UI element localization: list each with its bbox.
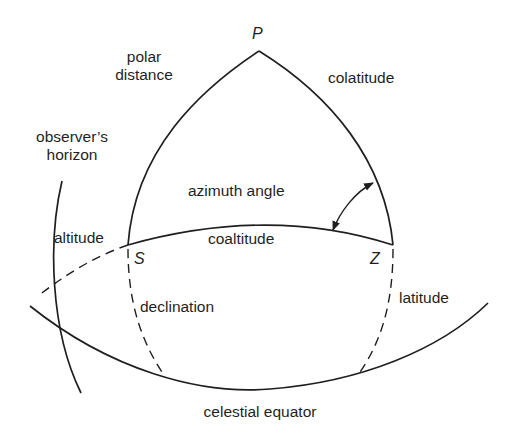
latitude-label: latitude [399,289,449,307]
coaltitude-label: coaltitude [208,230,274,248]
point-z-label: Z [370,250,380,268]
colatitude-label: colatitude [328,69,394,87]
observers-horizon-line2: horizon [20,146,124,164]
altitude-label: altitude [54,229,104,247]
celestial-triangle-diagram: P polar distance colatitude observer’s h… [0,0,513,445]
diagram-lines [0,0,513,445]
altitude-dashed-arc [38,245,128,296]
point-p-label: P [252,25,263,43]
declination-label: declination [140,298,214,316]
polar-distance-line1: polar [104,48,184,66]
observers-horizon-line1: observer’s [20,128,124,146]
celestial-equator-arc [30,303,488,390]
polar-distance-label: polar distance [104,48,184,84]
azimuth-angle-label: azimuth angle [188,182,285,200]
azimuth-angle-arrow [333,183,373,230]
observers-horizon-label: observer’s horizon [20,128,124,164]
celestial-equator-label: celestial equator [160,403,360,421]
polar-distance-line2: distance [104,66,184,84]
point-s-label: S [134,250,145,268]
observers-horizon-arc [54,181,81,393]
